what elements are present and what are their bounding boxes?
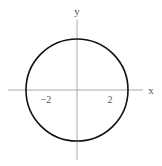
circle-plot: y x −2 2: [0, 0, 162, 166]
tick-label-neg2: −2: [41, 94, 52, 105]
plot-canvas: y x −2 2: [0, 0, 162, 166]
y-axis-label: y: [74, 5, 80, 17]
x-axis-label: x: [148, 84, 154, 96]
tick-label-pos2: 2: [108, 94, 113, 105]
